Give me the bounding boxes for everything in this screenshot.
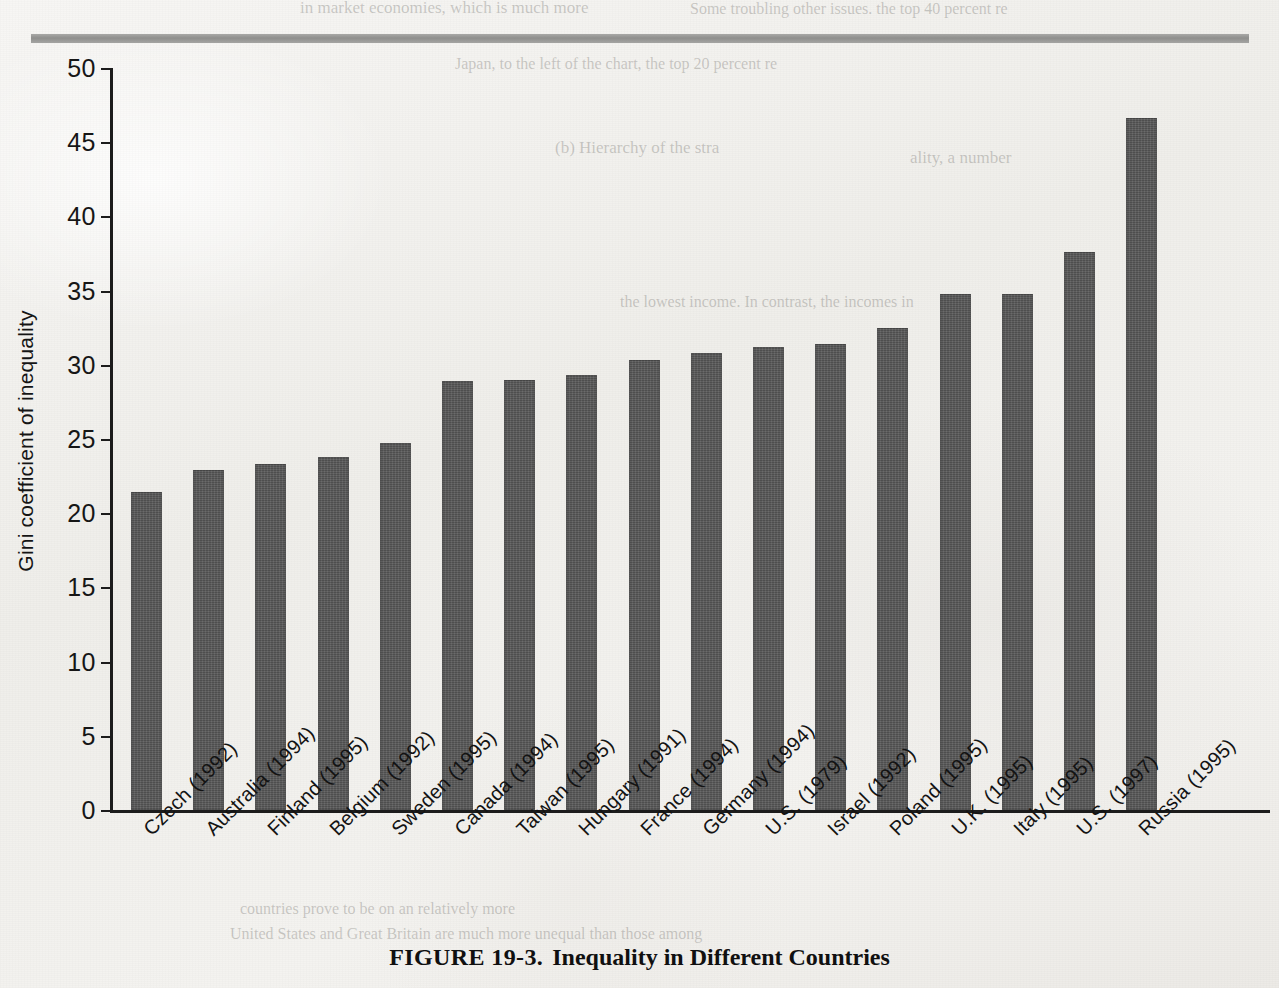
y-axis-line <box>110 68 113 813</box>
y-tick-mark <box>101 736 110 738</box>
x-axis-category-labels: Czech (1992)Australia (1994)Finland (199… <box>110 816 1270 936</box>
y-tick-mark <box>101 291 110 293</box>
figure-title: Inequality in Different Countries <box>552 944 890 970</box>
y-tick-label: 30 <box>67 350 96 379</box>
bar <box>1126 118 1157 810</box>
y-tick-mark <box>101 587 110 589</box>
y-tick-label: 10 <box>67 647 96 676</box>
figure-caption: FIGURE 19-3.Inequality in Different Coun… <box>0 944 1279 971</box>
bar <box>940 294 971 810</box>
y-tick-label: 5 <box>82 721 96 750</box>
y-axis-title: Gini coefficient of inequality <box>14 310 38 571</box>
y-tick-mark <box>101 365 110 367</box>
bar <box>131 492 162 810</box>
y-tick-mark <box>101 810 110 812</box>
bar <box>815 344 846 810</box>
y-tick-label: 20 <box>67 499 96 528</box>
figure-19-3: Gini coefficient of inequality 051015202… <box>0 0 1279 988</box>
y-tick-label: 0 <box>82 796 96 825</box>
y-tick-mark <box>101 142 110 144</box>
bar <box>753 347 784 810</box>
y-tick-label: 40 <box>67 202 96 231</box>
bar <box>1064 252 1095 810</box>
y-tick-mark <box>101 513 110 515</box>
y-tick-label: 45 <box>67 128 96 157</box>
y-tick-mark <box>101 68 110 70</box>
y-tick-mark <box>101 662 110 664</box>
figure-number: FIGURE 19-3. <box>389 944 543 970</box>
bar <box>877 328 908 810</box>
bar <box>1002 294 1033 810</box>
y-tick-label: 25 <box>67 425 96 454</box>
y-tick-label: 15 <box>67 573 96 602</box>
y-tick-mark <box>101 216 110 218</box>
bar-chart-plot-area: Gini coefficient of inequality 051015202… <box>110 68 1270 813</box>
y-tick-label: 35 <box>67 276 96 305</box>
y-tick-label: 50 <box>67 54 96 83</box>
y-tick-mark <box>101 439 110 441</box>
figure-page: in market economies, which is much more … <box>0 0 1279 988</box>
